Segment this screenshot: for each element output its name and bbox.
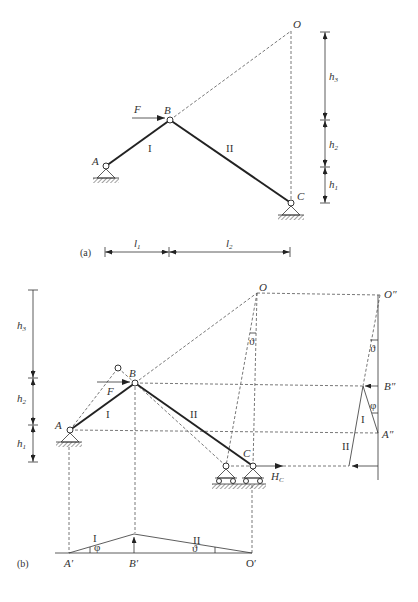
length-dimensions: l1 l2 [105, 237, 290, 257]
label-Hc: HC [270, 470, 284, 484]
svg-text:h2: h2 [329, 138, 339, 152]
hinge-A [103, 163, 109, 169]
svg-text:l2: l2 [226, 237, 233, 251]
label-member-II-poly: II [342, 440, 350, 452]
label-O-b: O [259, 281, 267, 293]
roller-support-C-b [212, 469, 266, 489]
member-II-b [135, 383, 253, 466]
member-II [170, 120, 291, 203]
figure-a: F A B C O I II h3 h2 h1 [80, 18, 339, 259]
svg-text:h3: h3 [329, 70, 339, 84]
hinge-B-b [132, 380, 138, 386]
label-O-prime: O′ [246, 557, 256, 569]
label-A: A [91, 155, 99, 167]
hinge-C [288, 200, 294, 206]
member-I-b [70, 383, 135, 430]
height-dimensions-b: h3 h2 h1 [17, 290, 38, 462]
label-O: O [293, 18, 301, 30]
angle-theta-right: ϑ [370, 342, 376, 354]
label-member-I-poly: I [361, 413, 365, 425]
label-B: B [164, 104, 171, 116]
svg-text:h1: h1 [329, 178, 338, 192]
angle-phi-right: φ [370, 399, 376, 411]
label-member-II-bottom: II [193, 534, 201, 546]
label-B-prime: B′ [129, 557, 139, 569]
label-A-b: A [54, 419, 62, 431]
displacement-line-bottom: φ ϑ I II A′ B′ O′ [55, 532, 256, 569]
displacement-polygon: ϑ φ I II O″ B″ A″ [342, 288, 397, 480]
angle-theta-O: ϑ [249, 335, 255, 347]
construction-lines-b [69, 293, 380, 553]
label-F-b: F [106, 385, 114, 397]
member-I [106, 120, 170, 166]
pin-support-A-b [56, 433, 82, 447]
svg-text:h3: h3 [17, 319, 27, 333]
caption-b: (b) [17, 558, 29, 570]
height-dimensions: h3 h2 h1 [320, 32, 339, 203]
label-B-double-prime: B″ [384, 380, 396, 392]
pin-support-C [278, 206, 304, 220]
label-A-double-prime: A″ [381, 428, 394, 440]
diagram-canvas: F A B C O I II h3 h2 h1 [0, 0, 418, 602]
label-C: C [297, 190, 305, 202]
hinge-B [167, 117, 173, 123]
hinge-C-displaced [223, 463, 229, 469]
svg-text:h1: h1 [17, 437, 26, 451]
label-member-I-b: I [106, 408, 110, 420]
figure-b: h3 h2 h1 [17, 281, 397, 570]
label-F: F [133, 103, 141, 115]
label-member-II-b: II [190, 408, 198, 420]
hinge-C-b [250, 463, 256, 469]
caption-a: (a) [80, 247, 91, 259]
label-member-II: II [226, 142, 234, 154]
label-member-I: I [148, 142, 152, 154]
hinge-B-displaced [115, 365, 121, 371]
label-O-double-prime: O″ [384, 288, 397, 300]
label-C-b: C [243, 447, 251, 459]
label-A-prime: A′ [63, 557, 74, 569]
hinge-A-b [67, 427, 73, 433]
pin-support-A [93, 169, 119, 183]
label-B-b: B [129, 367, 136, 379]
line-BO-dashed [170, 31, 291, 120]
label-member-I-bottom: I [93, 532, 97, 544]
svg-text:l1: l1 [134, 237, 141, 251]
svg-text:h2: h2 [17, 392, 27, 406]
